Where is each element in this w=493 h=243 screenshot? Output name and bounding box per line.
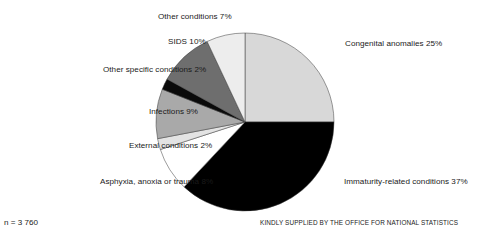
pie-label-asphyxia: Asphyxia, anoxia or trauma 8% xyxy=(100,178,213,187)
pie-label-other-specific-conditions: Other specific conditions 2% xyxy=(103,66,206,75)
sample-size-note: n = 3 760 xyxy=(4,218,38,227)
chart-page: Other conditions 7% SIDS 10% Other speci… xyxy=(0,0,493,243)
pie-label-external-conditions: External conditions 2% xyxy=(129,142,212,151)
source-credit: KINDLY SUPPLIED BY THE OFFICE FOR NATION… xyxy=(260,219,458,226)
pie-label-infections: Infections 9% xyxy=(149,108,198,117)
pie-label-congenital-anomalies: Congenital anomalies 25% xyxy=(345,40,442,49)
pie-label-other-conditions: Other conditions 7% xyxy=(158,13,232,22)
pie-slice-congenital-anomalies xyxy=(245,33,334,122)
pie-label-sids: SIDS 10% xyxy=(168,38,206,47)
pie-label-immaturity-related: Immaturity-related conditions 37% xyxy=(344,178,468,187)
